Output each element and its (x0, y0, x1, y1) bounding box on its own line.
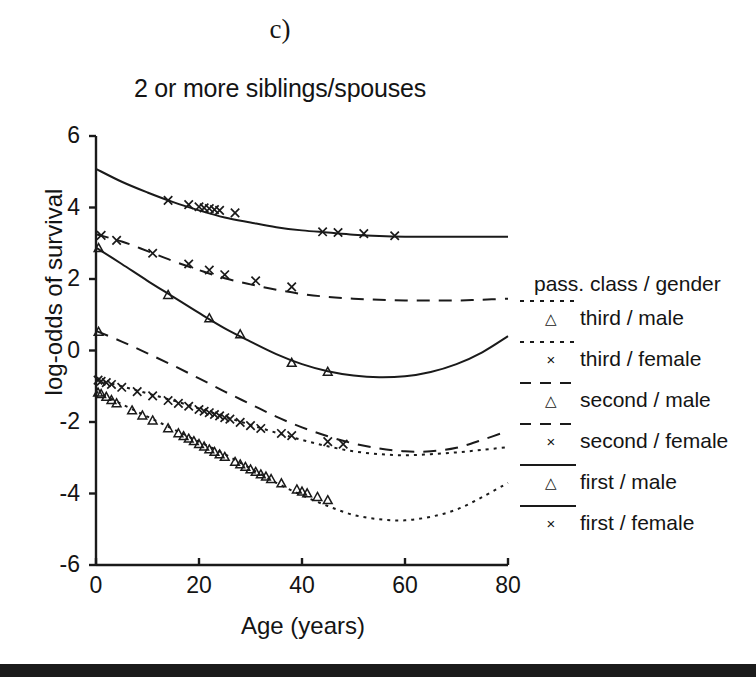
triangle-marker (313, 492, 322, 500)
x-tick-label: 20 (169, 572, 229, 599)
series-line (96, 331, 508, 452)
series-second-male (94, 327, 508, 451)
legend-line-sample (520, 423, 576, 425)
cross-marker (324, 437, 332, 445)
triangle-marker (277, 479, 286, 487)
legend-item-label: second / female (580, 429, 728, 453)
data-series-group (94, 169, 508, 521)
legend-item-first-female[interactable]: ×first / female (520, 501, 756, 542)
triangle-marker (323, 496, 332, 504)
y-tick-label: 2 (26, 265, 80, 292)
x-tick-label: 60 (375, 572, 435, 599)
series-line (96, 169, 508, 237)
legend-item-third-female[interactable]: ×third / female (520, 337, 756, 378)
legend-line-sample (520, 341, 576, 343)
legend-title: pass. class / gender (534, 272, 756, 296)
legend-item-second-male[interactable]: △second / male (520, 378, 756, 419)
triangle-marker (138, 411, 147, 419)
cross-marker (133, 387, 141, 395)
legend-item-label: third / male (580, 306, 684, 330)
x-tick-label: 80 (478, 572, 538, 599)
series-first-male (94, 244, 508, 378)
cross-marker (288, 283, 296, 291)
cross-marker (118, 383, 126, 391)
cross-marker (251, 277, 259, 285)
legend: pass. class / gender △third / male×third… (520, 272, 756, 542)
y-tick-label: -2 (26, 408, 80, 435)
x-tick-label: 40 (272, 572, 332, 599)
x-axis-title: Age (years) (96, 612, 510, 640)
cross-marker (185, 402, 193, 410)
legend-item-label: first / female (580, 511, 694, 535)
cross-marker (257, 424, 265, 432)
series-first-female (96, 169, 508, 240)
legend-item-label: third / female (580, 347, 701, 371)
legend-item-first-male[interactable]: △first / male (520, 460, 756, 501)
cross-marker (164, 396, 172, 404)
cross-marker (215, 206, 223, 214)
legend-item-second-female[interactable]: ×second / female (520, 419, 756, 460)
axes (89, 136, 508, 565)
cross-marker (360, 229, 368, 237)
legend-items: △third / male×third / female△second / ma… (520, 296, 756, 542)
y-tick-label: 4 (26, 194, 80, 221)
y-tick-label: 6 (26, 122, 80, 149)
footer-bar (0, 664, 756, 677)
triangle-marker (164, 424, 173, 432)
x-tick-label: 0 (66, 572, 126, 599)
series-second-female (96, 231, 508, 300)
legend-line-sample (520, 505, 576, 507)
legend-line-sample (520, 382, 576, 384)
cross-marker (148, 249, 156, 257)
cross-marker (246, 421, 254, 429)
series-line (96, 234, 508, 300)
cross-marker (148, 392, 156, 400)
series-third-male (94, 388, 508, 520)
legend-line-sample (520, 300, 576, 302)
legend-item-third-male[interactable]: △third / male (520, 296, 756, 337)
legend-item-label: first / male (580, 470, 677, 494)
triangle-marker: △ (542, 474, 560, 492)
series-line (96, 380, 508, 455)
cross-marker: × (542, 433, 560, 451)
cross-marker: × (542, 515, 560, 533)
series-line (96, 392, 508, 521)
series-third-female (94, 376, 508, 455)
cross-marker: × (542, 351, 560, 369)
legend-line-sample (520, 464, 576, 466)
figure-page: c) 2 or more siblings/spouses log-odds o… (0, 0, 756, 677)
triangle-marker: △ (542, 310, 560, 328)
cross-marker (231, 209, 239, 217)
y-tick-label: 0 (26, 337, 80, 364)
legend-item-label: second / male (580, 388, 711, 412)
cross-marker (277, 429, 285, 437)
triangle-marker: △ (542, 392, 560, 410)
y-tick-label: -4 (26, 480, 80, 507)
